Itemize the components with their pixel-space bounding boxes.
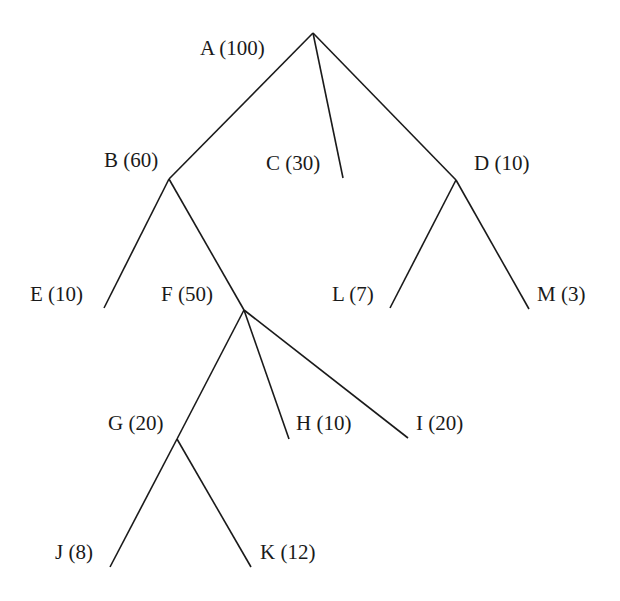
edge-d-l [390, 180, 456, 308]
node-label-e: E (10) [30, 284, 83, 305]
node-label-k: K (12) [260, 542, 315, 563]
node-label-j: J (8) [55, 542, 93, 563]
node-label-g: G (20) [108, 413, 163, 434]
edge-g-j [110, 439, 177, 567]
edge-b-e [104, 179, 169, 308]
edge-f-g [177, 310, 244, 439]
edge-f-h [244, 310, 289, 439]
edge-a-d [313, 33, 456, 180]
node-label-i: I (20) [416, 413, 463, 434]
node-label-b: B (60) [104, 150, 158, 171]
edge-g-k [177, 439, 251, 567]
tree-diagram [0, 0, 620, 601]
node-label-h: H (10) [296, 413, 351, 434]
node-label-a: A (100) [200, 38, 265, 59]
node-label-l: L (7) [332, 284, 374, 305]
node-label-c: C (30) [266, 153, 320, 174]
node-label-m: M (3) [537, 284, 585, 305]
node-label-d: D (10) [474, 153, 529, 174]
edge-d-m [456, 180, 529, 309]
node-label-f: F (50) [161, 284, 213, 305]
